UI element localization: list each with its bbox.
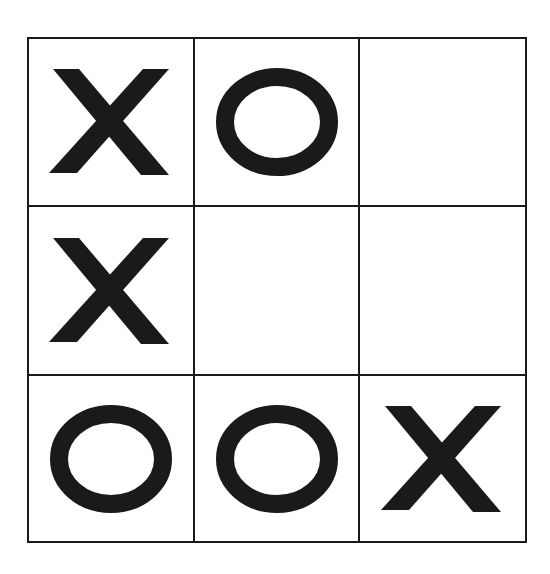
cell-r3-c2[interactable]	[195, 376, 358, 541]
cell-r2-c2[interactable]	[195, 207, 358, 374]
cell-r1-c1[interactable]	[29, 39, 193, 205]
x-mark-icon	[49, 238, 173, 344]
tic-tac-toe-board	[27, 37, 527, 543]
cell-r3-c3[interactable]	[360, 376, 525, 541]
cell-r1-c2[interactable]	[195, 39, 358, 205]
x-mark-icon	[381, 406, 505, 512]
x-mark-icon	[49, 69, 173, 175]
o-mark-icon	[214, 66, 340, 178]
o-mark-icon	[48, 403, 174, 515]
o-mark-icon	[214, 403, 340, 515]
cell-r3-c1[interactable]	[29, 376, 193, 541]
cell-r2-c1[interactable]	[29, 207, 193, 374]
cell-r2-c3[interactable]	[360, 207, 525, 374]
cell-r1-c3[interactable]	[360, 39, 525, 205]
